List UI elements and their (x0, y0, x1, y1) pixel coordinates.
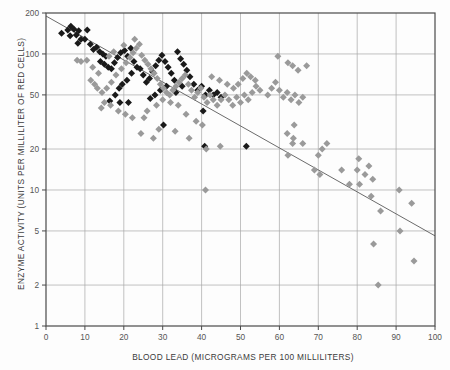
data-point (185, 81, 192, 88)
data-point (241, 91, 248, 98)
data-point (160, 122, 167, 129)
data-point (225, 96, 232, 103)
enzyme-activity-scatter-figure: 0102030405060708090100125102050100200 EN… (0, 0, 450, 370)
data-point (288, 96, 295, 103)
data-point (264, 91, 271, 98)
data-point (295, 99, 302, 106)
data-point (122, 111, 129, 118)
data-point (355, 155, 362, 162)
x-tick-label: 90 (391, 332, 401, 342)
data-point (237, 99, 244, 106)
data-point (230, 85, 237, 92)
data-point (214, 102, 221, 109)
data-point (284, 130, 291, 137)
data-point (103, 85, 110, 92)
data-point (83, 57, 90, 64)
y-tick-label: 20 (30, 144, 40, 154)
data-point (101, 99, 108, 106)
data-point (396, 227, 403, 234)
data-point (113, 72, 120, 79)
data-point (128, 70, 135, 77)
plot-area: 0102030405060708090100125102050100200 (0, 0, 450, 370)
data-point (183, 111, 190, 118)
data-point (168, 70, 175, 77)
data-point (131, 36, 138, 43)
data-point (276, 87, 283, 94)
data-point (272, 79, 279, 86)
data-point (245, 96, 252, 103)
y-tick-label: 1 (34, 321, 39, 331)
y-tick-label: 50 (30, 90, 40, 100)
data-point (155, 126, 162, 133)
data-point (95, 70, 102, 77)
series-dark-group (58, 23, 250, 150)
x-tick-label: 100 (428, 332, 442, 342)
y-tick-label: 10 (30, 185, 40, 195)
data-point (202, 186, 209, 193)
data-point (186, 135, 193, 142)
y-tick-label: 2 (34, 280, 39, 290)
data-point (291, 91, 298, 98)
data-point (144, 108, 151, 115)
data-point (200, 108, 207, 115)
data-point (177, 55, 184, 62)
data-point (361, 171, 368, 178)
data-point (129, 114, 136, 121)
data-point (153, 102, 160, 109)
x-tick-label: 70 (314, 332, 324, 342)
data-point (338, 167, 345, 174)
data-point (123, 77, 130, 84)
data-point (193, 118, 200, 125)
data-point (323, 140, 330, 147)
data-point (229, 102, 236, 109)
data-points (58, 23, 417, 289)
data-point (224, 81, 231, 88)
x-tick-label: 30 (158, 332, 168, 342)
data-point (295, 67, 302, 74)
data-point (172, 128, 179, 135)
data-point (58, 30, 65, 37)
data-point (370, 241, 377, 248)
data-point (98, 105, 105, 112)
data-point (208, 73, 215, 80)
data-point (175, 102, 182, 109)
data-point (299, 140, 306, 147)
x-tick-label: 40 (197, 332, 207, 342)
data-point (180, 61, 187, 68)
data-point (112, 91, 119, 98)
x-axis-title: BLOOD LEAD (MICROGRAMS PER 100 MILLILITE… (46, 352, 440, 362)
data-point (354, 167, 361, 174)
data-point (396, 186, 403, 193)
data-point (408, 200, 415, 207)
data-point (199, 122, 206, 129)
data-point (346, 181, 353, 188)
y-tick-label: 200 (25, 8, 39, 18)
grid-lines (46, 13, 435, 326)
data-point (319, 146, 326, 153)
data-point (216, 77, 223, 84)
data-point (311, 167, 318, 174)
data-point (89, 64, 96, 71)
data-point (377, 208, 384, 215)
data-point (159, 96, 166, 103)
data-point (410, 258, 417, 265)
data-point (315, 152, 322, 159)
x-tick-label: 50 (236, 332, 246, 342)
x-tick-label: 0 (44, 332, 49, 342)
data-point (108, 79, 115, 86)
data-point (268, 85, 275, 92)
data-point (365, 163, 372, 170)
data-point (243, 143, 250, 150)
x-tick-label: 60 (275, 332, 285, 342)
y-tick-label: 5 (34, 226, 39, 236)
y-axis-title: ENZYME ACTIVITY (UNITS PER MILLILITER OF… (16, 40, 26, 290)
data-point (150, 135, 157, 142)
data-point (217, 143, 224, 150)
data-point (303, 62, 310, 69)
data-point (375, 282, 382, 289)
data-point (115, 108, 122, 115)
data-point (291, 122, 298, 129)
y-tick-label: 100 (25, 49, 39, 59)
x-tick-label: 10 (80, 332, 90, 342)
data-point (369, 176, 376, 183)
